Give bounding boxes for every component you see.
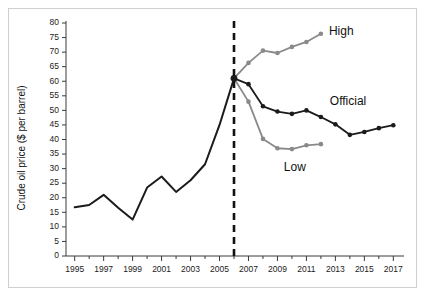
cropped-title-strip bbox=[0, 0, 425, 7]
series-label-low: Low bbox=[284, 160, 306, 174]
data-point-official bbox=[377, 126, 382, 131]
y-tick-label: 60 bbox=[50, 76, 60, 86]
y-tick-label: 30 bbox=[50, 163, 60, 173]
x-tick-label: 2009 bbox=[268, 264, 287, 274]
y-tick-label: 70 bbox=[50, 46, 60, 56]
y-tick-label: 45 bbox=[50, 119, 60, 129]
y-tick-label: 15 bbox=[50, 207, 60, 217]
series-label-official: Official bbox=[330, 94, 366, 108]
y-tick-label: 65 bbox=[50, 61, 60, 71]
chart-plot-area: Crude oil price ($ per barrel) 051015202… bbox=[9, 9, 416, 287]
x-tick-label: 1999 bbox=[123, 264, 142, 274]
x-tick-label: 2005 bbox=[210, 264, 229, 274]
x-tick-label: 2013 bbox=[326, 264, 345, 274]
data-point-official bbox=[348, 133, 353, 138]
data-point-official bbox=[333, 122, 338, 127]
x-axis-ticks: 1995199719992001200320052007200920112013… bbox=[65, 256, 403, 274]
y-tick-label: 10 bbox=[50, 221, 60, 231]
x-tick-label: 1997 bbox=[94, 264, 113, 274]
data-point-official bbox=[304, 108, 309, 113]
y-tick-label: 35 bbox=[50, 148, 60, 158]
y-tick-label: 25 bbox=[50, 177, 60, 187]
series-label-high: High bbox=[329, 24, 354, 38]
data-point-official bbox=[391, 123, 396, 128]
data-point-low bbox=[261, 137, 266, 142]
data-point-high bbox=[261, 48, 266, 53]
y-tick-label: 40 bbox=[50, 134, 60, 144]
crude-oil-price-line-chart: Crude oil price ($ per barrel) 051015202… bbox=[9, 9, 416, 287]
y-axis-ticks: 05101520253035404550556065707580 bbox=[50, 17, 66, 260]
data-point-low bbox=[319, 142, 324, 147]
y-tick-label: 50 bbox=[50, 105, 60, 115]
y-tick-label: 5 bbox=[54, 236, 59, 246]
x-tick-label: 1995 bbox=[65, 264, 84, 274]
y-axis-title-group: Crude oil price ($ per barrel) bbox=[16, 85, 27, 210]
y-tick-label: 75 bbox=[50, 32, 60, 42]
data-point-low bbox=[275, 146, 280, 151]
data-point-low bbox=[290, 147, 295, 152]
x-tick-label: 2003 bbox=[181, 264, 200, 274]
x-tick-label: 2007 bbox=[239, 264, 258, 274]
y-axis-title: Crude oil price ($ per barrel) bbox=[16, 85, 27, 210]
data-point-high bbox=[246, 61, 251, 66]
y-tick-label: 0 bbox=[54, 250, 59, 260]
x-tick-label: 2011 bbox=[297, 264, 316, 274]
axis-lines bbox=[66, 21, 404, 256]
data-point-high bbox=[290, 45, 295, 50]
chart-frame: Crude oil price ($ per barrel) 051015202… bbox=[8, 8, 417, 288]
series-line-historical bbox=[75, 78, 234, 219]
y-tick-label: 55 bbox=[50, 90, 60, 100]
data-point-official bbox=[246, 82, 251, 87]
data-point-official bbox=[261, 104, 266, 109]
x-tick-label: 2017 bbox=[384, 264, 403, 274]
x-tick-label: 2015 bbox=[355, 264, 374, 274]
data-point-high bbox=[304, 40, 309, 45]
y-tick-label: 20 bbox=[50, 192, 60, 202]
data-point-low bbox=[304, 143, 309, 148]
data-point-low bbox=[246, 99, 251, 104]
y-tick-label: 80 bbox=[50, 17, 60, 27]
x-tick-label: 2001 bbox=[152, 264, 171, 274]
data-point-official bbox=[290, 112, 295, 117]
data-point-official bbox=[275, 109, 280, 114]
data-point-official bbox=[362, 130, 367, 135]
data-point-high bbox=[275, 51, 280, 56]
data-point-high bbox=[319, 31, 324, 36]
data-point-official bbox=[319, 115, 324, 120]
